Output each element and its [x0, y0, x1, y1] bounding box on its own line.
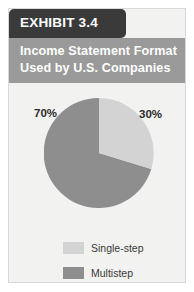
exhibit-title-band: Income Statement Format Used by U.S. Com…: [9, 38, 186, 83]
legend-label-multistep: Multistep: [91, 267, 133, 279]
pie-chart: [44, 98, 154, 208]
legend-label-single-step: Single-step: [91, 242, 144, 254]
legend-item-single-step: Single-step: [63, 238, 144, 257]
chart-legend: Single-step Multistep: [63, 238, 144, 283]
legend-swatch-multistep: [63, 267, 84, 279]
pie-label-multistep-percent: 70%: [34, 107, 57, 119]
legend-swatch-single-step: [63, 242, 84, 254]
pie-label-single-step-percent: 30%: [139, 108, 162, 120]
exhibit-title-line-1: Income Statement Format: [20, 44, 177, 58]
exhibit-tab: EXHIBIT 3.4: [9, 9, 126, 38]
legend-item-multistep: Multistep: [63, 263, 144, 282]
pie-chart-svg: [44, 98, 154, 208]
pie-chart-area: 70% 30% Single-step Multistep: [9, 83, 186, 283]
exhibit-title: Income Statement Format Used by U.S. Com…: [20, 43, 180, 77]
exhibit-tab-label: EXHIBIT 3.4: [20, 15, 98, 30]
exhibit-title-line-2: Used by U.S. Companies: [20, 61, 171, 75]
exhibit-card: EXHIBIT 3.4 Income Statement Format Used…: [8, 8, 186, 283]
